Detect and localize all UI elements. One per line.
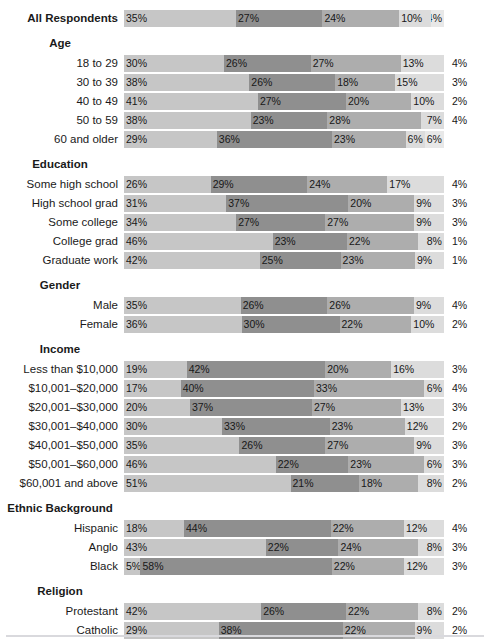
stacked-bar: 38%23%28%7%: [124, 112, 444, 129]
bar-segment-independent: 28%: [327, 112, 420, 129]
chart-row: Female36%30%22%10%2%: [0, 315, 490, 334]
stacked-bar: 42%26%22%8%: [124, 603, 444, 620]
bar-wrap: 20%37%27%13%3%: [124, 398, 490, 417]
bar-segment-other: 10%: [411, 93, 444, 110]
bar-segment-republican: 31%: [124, 195, 226, 212]
bar-segment-independent: 24%: [322, 10, 399, 27]
bar-segment-democrat: 30%: [242, 316, 340, 333]
bar-segment-other: 16%: [391, 361, 444, 378]
dont-know-label: 3%: [444, 437, 467, 454]
chart-group: IncomeLess than $10,00019%42%20%16%3%$10…: [0, 334, 490, 493]
chart-row: 40 to 4941%27%20%10%2%: [0, 92, 490, 111]
bar-segment-independent: 22%: [332, 558, 405, 575]
stacked-bar: 18%44%22%12%: [124, 520, 444, 537]
dont-know-label: 4%: [444, 55, 467, 72]
bar-segment-other: 8%: [418, 233, 444, 250]
bar-segment-independent: 20%: [348, 195, 414, 212]
row-label: High school grad: [0, 197, 124, 210]
dont-know-label: 2%: [444, 316, 467, 333]
chart-row: Graduate work42%25%23%9%1%: [0, 251, 490, 270]
bar-segment-democrat: 33%: [222, 418, 330, 435]
stacked-bar: 36%30%22%10%: [124, 316, 444, 333]
bar-wrap: 30%33%23%12%2%: [124, 417, 490, 436]
chart-row: $60,001 and above51%21%18%8%2%: [0, 474, 490, 493]
bar-wrap: 38%26%18%15%3%: [124, 73, 490, 92]
bar-segment-republican: 26%: [124, 176, 211, 193]
chart-row: Anglo43%22%24%8%3%: [0, 538, 490, 557]
row-label: 60 and older: [0, 133, 124, 146]
row-label: Protestant: [0, 605, 124, 618]
group-spacer: [0, 334, 490, 343]
bar-segment-independent: 18%: [359, 475, 418, 492]
row-label: 50 to 59: [0, 114, 124, 127]
bar-segment-republican: 41%: [124, 93, 258, 110]
row-label: College grad: [0, 235, 124, 248]
chart-row: 60 and older29%36%23%6%6%: [0, 130, 490, 149]
bar-segment-independent: 27%: [312, 399, 401, 416]
bar-segment-independent: 24%: [338, 539, 417, 556]
bar-wrap: 19%42%20%16%3%: [124, 360, 490, 379]
row-label: 30 to 39: [0, 76, 124, 89]
chart-group: All Respondents35%27%24%10%4%: [0, 0, 490, 28]
bar-wrap: 42%25%23%9%1%: [124, 251, 490, 270]
bar-segment-democrat: 25%: [260, 252, 341, 269]
row-label: $20,001–$30,000: [0, 401, 124, 414]
row-label: 18 to 29: [0, 57, 124, 70]
footer-divider: [6, 635, 484, 637]
stacked-bar: 42%25%23%9%: [124, 252, 444, 269]
bar-wrap: 38%23%28%7%4%: [124, 111, 490, 130]
bar-segment-republican: 43%: [124, 539, 266, 556]
chart-row: $30,001–$40,00030%33%23%12%2%: [0, 417, 490, 436]
row-label: $60,001 and above: [0, 477, 124, 490]
bar-wrap: 35%26%26%9%4%: [124, 296, 490, 315]
chart-group: EducationSome high school26%29%24%17%4%H…: [0, 149, 490, 270]
stacked-bar: 35%26%26%9%: [124, 297, 444, 314]
dont-know-label: 2%: [444, 475, 467, 492]
chart-row: $20,001–$30,00020%37%27%13%3%: [0, 398, 490, 417]
group-spacer: [0, 493, 490, 502]
chart-row: Male35%26%26%9%4%: [0, 296, 490, 315]
row-label: Less than $10,000: [0, 363, 124, 376]
bar-segment-independent: 22%: [346, 603, 418, 620]
bar-segment-other: 17%: [387, 176, 444, 193]
bar-segment-other: 9%: [414, 195, 444, 212]
stacked-bar: 26%29%24%17%: [124, 176, 444, 193]
bar-wrap: 18%44%22%12%4%: [124, 519, 490, 538]
stacked-bar: 41%27%20%10%: [124, 93, 444, 110]
dont-know-label: 3%: [444, 558, 467, 575]
stacked-bar: 34%27%27%9%: [124, 214, 444, 231]
stacked-bar: 35%26%27%9%: [124, 437, 444, 454]
stacked-bar: 19%42%20%16%: [124, 361, 444, 378]
bar-segment-other: 8%: [418, 603, 444, 620]
group-spacer: [0, 270, 490, 279]
stacked-bar: 46%23%22%8%: [124, 233, 444, 250]
bar-segment-democrat: 22%: [276, 456, 349, 473]
dont-know-label: 1%: [444, 233, 467, 250]
bar-wrap: 46%23%22%8%1%: [124, 232, 490, 251]
bar-segment-other: 13%: [401, 55, 444, 72]
bar-segment-independent: 20%: [325, 361, 391, 378]
bar-segment-independent: 23%: [341, 252, 415, 269]
stacked-bar: 38%26%18%15%: [124, 74, 444, 91]
bar-segment-other: 13%: [401, 399, 444, 416]
bar-segment-democrat: 27%: [236, 214, 325, 231]
bar-segment-independent: 24%: [307, 176, 387, 193]
bar-segment-other: 9%: [414, 297, 444, 314]
dont-know-label: 3%: [444, 456, 467, 473]
bar-segment-independent: 22%: [347, 233, 418, 250]
bar-segment-democrat: 27%: [236, 10, 322, 27]
bar-wrap: 43%22%24%8%3%: [124, 538, 490, 557]
dont-know-label: 1%: [444, 252, 467, 269]
stacked-bar: 35%27%24%10%4%: [124, 10, 444, 27]
bar-segment-other: 6%: [424, 380, 444, 397]
bar-segment-republican: 30%: [124, 55, 224, 72]
chart-row: All Respondents35%27%24%10%4%: [0, 9, 490, 28]
bar-segment-republican: 29%: [124, 131, 217, 148]
bar-wrap: 41%27%20%10%2%: [124, 92, 490, 111]
group-header: Age: [0, 37, 124, 54]
row-label: $40,001–$50,000: [0, 439, 124, 452]
dont-know-label: 2%: [444, 93, 467, 110]
chart-row: High school grad31%37%20%9%3%: [0, 194, 490, 213]
bar-segment-democrat: 44%: [184, 520, 331, 537]
bar-segment-democrat: 26%: [241, 297, 328, 314]
